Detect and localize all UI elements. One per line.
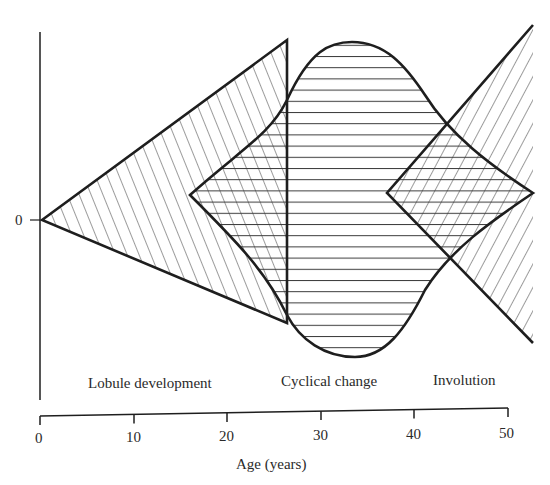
phase-label-involution: Involution	[433, 372, 496, 388]
x-tick-label-0: 0	[35, 430, 43, 446]
x-tick-label-10: 10	[126, 429, 141, 445]
x-tick-label-20: 20	[219, 428, 234, 444]
x-tick-label-30: 30	[313, 427, 328, 443]
x-axis-line	[40, 408, 508, 416]
x-axis-title: Age (years)	[236, 456, 306, 473]
diagram-svg: 0 Lobule development Cyclical change Inv…	[0, 0, 550, 485]
y-zero-label: 0	[15, 212, 23, 228]
diagram-canvas: 0 Lobule development Cyclical change Inv…	[0, 0, 550, 485]
phase-label-lobule-development: Lobule development	[88, 375, 213, 391]
x-axis	[40, 408, 508, 425]
phase-label-cyclical-change: Cyclical change	[281, 373, 378, 389]
x-tick-label-50: 50	[499, 425, 514, 441]
x-tick-label-40: 40	[406, 426, 421, 442]
